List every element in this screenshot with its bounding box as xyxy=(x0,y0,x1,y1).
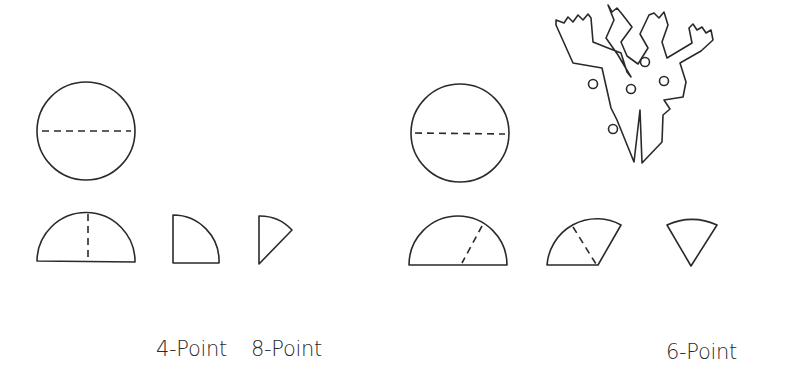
two-thirds-fold xyxy=(547,219,621,265)
label-4-point-fold: 4-Point fold xyxy=(156,284,227,375)
label-8-point-line1: 8-Point xyxy=(251,336,322,362)
right-semicircle-fold-line xyxy=(462,226,482,263)
label-6-point-line1: 6-Point xyxy=(666,339,737,365)
left-semicircle xyxy=(37,213,135,262)
right-semicircle xyxy=(409,216,507,265)
hole-3 xyxy=(641,58,650,67)
right-circle-fold-line xyxy=(415,133,505,134)
quarter-circle xyxy=(173,215,219,263)
label-8-point-fold: 8-Point fold xyxy=(251,284,322,375)
hole-5 xyxy=(609,125,618,134)
two-thirds-fold-line xyxy=(573,227,596,264)
left-circle xyxy=(37,82,135,180)
label-4-point-line1: 4-Point xyxy=(156,336,227,362)
snowflake-cutout xyxy=(556,5,713,163)
eighth-circle-wedge xyxy=(259,216,292,264)
hole-2 xyxy=(627,85,636,94)
label-6-point-fold: 6-Point fold xyxy=(666,287,737,375)
hole-4 xyxy=(660,77,669,86)
right-circle xyxy=(411,84,509,182)
hole-1 xyxy=(589,80,598,89)
sixth-circle-wedge xyxy=(667,219,717,266)
